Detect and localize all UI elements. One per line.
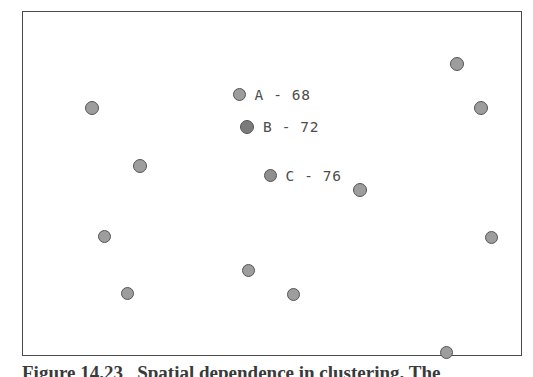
annotation-a: A - 68	[233, 88, 311, 103]
figure-caption: Figure 14.23 Spatial dependence in clust…	[22, 362, 527, 377]
plot-frame	[22, 11, 522, 356]
annotation-c: C - 76	[264, 169, 342, 184]
annotation-label: B - 72	[263, 120, 319, 135]
scatter-point	[474, 101, 488, 115]
annotation-b: B - 72	[240, 120, 319, 135]
scatter-point	[440, 346, 453, 359]
scatter-point	[450, 57, 464, 71]
figure-container: A - 68B - 72C - 76 Figure 14.23 Spatial …	[0, 0, 533, 377]
annotation-label: A - 68	[255, 88, 311, 103]
scatter-point	[353, 183, 367, 197]
scatter-point	[287, 288, 300, 301]
annotation-marker-icon	[264, 169, 277, 182]
scatter-point	[485, 231, 498, 244]
annotation-label: C - 76	[286, 169, 342, 184]
scatter-point	[85, 101, 99, 115]
scatter-point	[98, 230, 111, 243]
annotation-marker-icon	[240, 120, 254, 134]
scatter-point	[133, 159, 147, 173]
annotation-marker-icon	[233, 88, 246, 101]
scatter-point	[242, 264, 255, 277]
scatter-point	[121, 287, 134, 300]
